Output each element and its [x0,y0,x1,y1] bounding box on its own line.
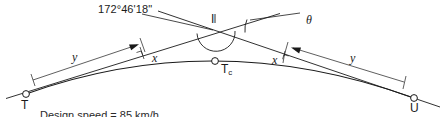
dim-line-right-y [293,48,404,82]
intersection-point-label: I [211,13,214,25]
point-marker-Tc [212,58,219,65]
dim-label-left-x: x [152,52,157,64]
angle-label-leader-line [142,14,213,30]
dim-arrowhead-right-y [291,47,301,53]
curve-diagram-figure: 172°46'18" θ I Tc T U y x x y Design spe… [0,0,444,117]
curve-midpoint-subscript: c [228,68,232,77]
dim-tick-right-outer [403,76,406,89]
dim-label-right-y: y [350,52,355,64]
point-marker-T [23,91,30,98]
tangent-point-right-label: U [410,102,419,114]
diagram-canvas [0,0,444,117]
curve-midpoint-label: Tc [221,63,232,75]
deflection-angle-ray [250,13,300,20]
deflection-angle-label: θ [306,14,312,26]
interior-angle-label: 172°46'18" [98,4,152,15]
horizontal-curve-arc [26,61,414,98]
deflection-angle-arc [245,20,247,33]
dim-tick-left-outer [31,74,35,86]
dim-label-left-y: y [72,51,77,63]
figure-caption: Design speed = 85 km/h [40,110,159,117]
tangent-point-left-label: T [21,99,28,111]
dim-label-right-x: x [272,54,277,66]
dim-arrowhead-left-y [129,44,139,50]
interior-angle-arc [197,31,235,51]
